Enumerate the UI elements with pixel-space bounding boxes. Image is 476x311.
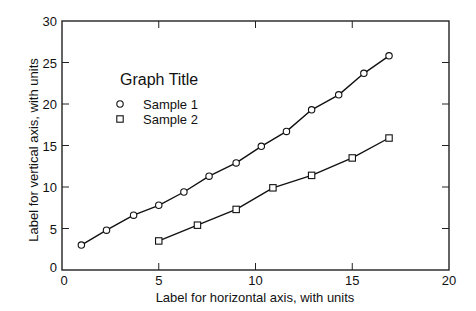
y-tick-label: 10 (43, 180, 57, 195)
data-point (103, 227, 109, 233)
data-point (194, 222, 200, 228)
data-point (181, 189, 187, 195)
data-point (361, 70, 367, 76)
y-tick-label: 25 (43, 56, 57, 71)
series-2 (156, 135, 393, 244)
data-point (233, 160, 239, 166)
data-point (258, 143, 264, 149)
chart-svg: 05101520051015202530 Graph Title Sample … (0, 0, 476, 311)
data-point (336, 92, 342, 98)
y-tick-label: 30 (43, 14, 57, 29)
data-point (156, 238, 162, 244)
y-tick-label: 20 (43, 97, 57, 112)
legend-label: Sample 1 (143, 97, 198, 112)
legend-item-1: Sample 1 (117, 97, 198, 112)
axis-ticks: 05101520051015202530 (43, 14, 457, 288)
y-axis-label: Label for vertical axis, with units (26, 58, 41, 242)
data-point (233, 206, 239, 212)
x-tick-label: 10 (248, 273, 262, 288)
data-point (206, 173, 212, 179)
data-point (308, 107, 314, 113)
data-point (386, 135, 392, 141)
legend-title: Graph Title (120, 71, 198, 88)
data-point (270, 185, 276, 191)
y-tick-label: 5 (50, 222, 57, 237)
circle-marker-icon (117, 101, 123, 107)
data-point (386, 53, 392, 59)
data-point (283, 128, 289, 134)
x-tick-label: 5 (155, 273, 162, 288)
x-tick-label: 20 (442, 273, 456, 288)
data-point (308, 172, 314, 178)
legend-items: Sample 1Sample 2 (117, 97, 198, 127)
x-tick-label: 15 (345, 273, 359, 288)
data-point (130, 212, 136, 218)
y-tick-label: 0 (50, 260, 57, 275)
x-axis-label: Label for horizontal axis, with units (156, 290, 355, 305)
x-tick-label: 0 (60, 273, 67, 288)
legend: Graph Title Sample 1Sample 2 (117, 71, 199, 127)
data-point (78, 242, 84, 248)
square-marker-icon (117, 116, 123, 122)
legend-item-2: Sample 2 (117, 112, 198, 127)
legend-label: Sample 2 (143, 112, 198, 127)
data-point (156, 202, 162, 208)
chart-container: 05101520051015202530 Graph Title Sample … (0, 0, 476, 311)
data-point (349, 155, 355, 161)
y-tick-label: 15 (43, 139, 57, 154)
